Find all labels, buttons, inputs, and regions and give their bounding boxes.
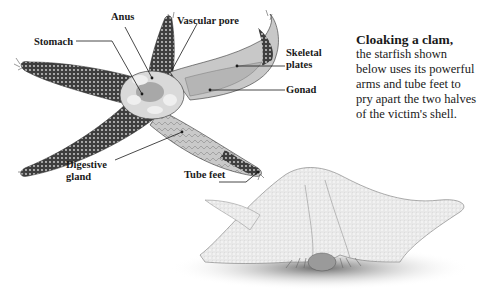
label-vascular-pore: Vascular pore — [177, 15, 239, 26]
caption-body: the starfish shown below uses its powerf… — [356, 47, 476, 121]
label-stomach: Stomach — [34, 36, 73, 47]
starfish-on-clam — [170, 168, 470, 291]
label-tube-feet: Tube feet — [184, 169, 225, 180]
label-skeletal-plates-2: plates — [286, 59, 312, 70]
label-digestive-gland-2: gland — [66, 171, 91, 182]
caption-title: Cloaking a clam, — [356, 32, 478, 47]
label-digestive-gland-1: Digestive — [66, 159, 107, 170]
label-anus: Anus — [111, 11, 134, 22]
starfish-diagram: Anus Vascular pore Stomach Skeletal plat… — [0, 0, 479, 294]
caption: Cloaking a clam, the starfish shown belo… — [356, 32, 478, 122]
label-gonad: Gonad — [286, 84, 316, 95]
label-skeletal-plates-1: Skeletal — [286, 47, 322, 58]
